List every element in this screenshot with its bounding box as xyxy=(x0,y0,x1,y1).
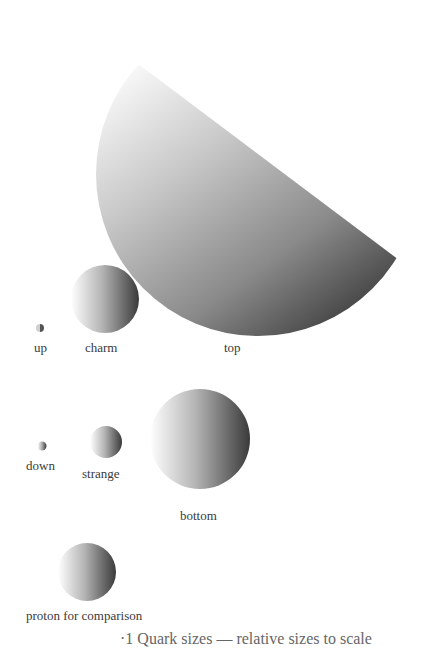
label-down: down xyxy=(26,458,55,474)
strange-quark-shape xyxy=(90,426,122,458)
label-bottom: bottom xyxy=(180,508,217,524)
charm-quark-shape xyxy=(71,265,139,333)
label-top: top xyxy=(224,340,241,356)
down-quark-shape xyxy=(38,442,47,451)
label-strange: strange xyxy=(82,466,120,482)
label-proton: proton for comparison xyxy=(26,608,142,624)
bottom-quark-shape xyxy=(150,389,250,489)
top-quark-shape xyxy=(96,12,420,336)
proton-shape xyxy=(58,543,116,601)
up-quark-shape xyxy=(40,324,44,332)
label-up: up xyxy=(34,340,47,356)
label-charm: charm xyxy=(85,340,117,356)
figure-caption: ·1 Quark sizes — relative sizes to scale xyxy=(120,630,372,648)
